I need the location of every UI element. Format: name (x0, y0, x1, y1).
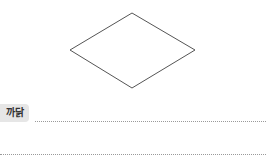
answer-line-2[interactable] (0, 154, 266, 155)
answer-line-1[interactable] (35, 121, 266, 122)
rhombus-shape (70, 13, 195, 88)
rhombus-figure (0, 0, 269, 100)
reason-label: 까닭 (0, 104, 29, 122)
